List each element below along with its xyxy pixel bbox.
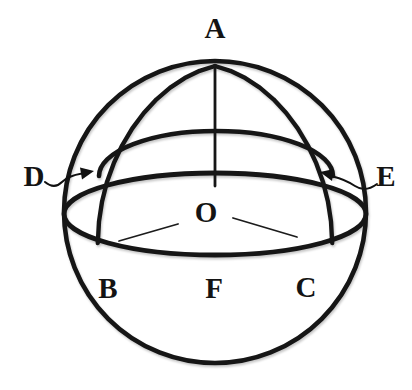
sphere-diagram: A D E O B F C	[0, 0, 412, 390]
label-center-o: O	[195, 196, 218, 228]
radius-hint-right	[233, 218, 297, 237]
right-meridian-arc	[215, 66, 332, 243]
label-apex-a: A	[205, 12, 226, 44]
label-point-d: D	[24, 160, 45, 192]
label-point-e: E	[376, 160, 395, 192]
label-point-b: B	[98, 272, 117, 304]
figure-canvas: A D E O B F C	[0, 0, 412, 390]
label-e-leader-squiggle	[333, 177, 377, 189]
label-point-c: C	[296, 271, 317, 303]
radius-hint-left	[119, 224, 178, 241]
label-d-leader-squiggle	[45, 174, 82, 186]
label-point-f: F	[205, 272, 223, 304]
label-d-arrowhead-icon	[80, 168, 94, 180]
point-labels: A D E O B F C	[24, 12, 396, 304]
